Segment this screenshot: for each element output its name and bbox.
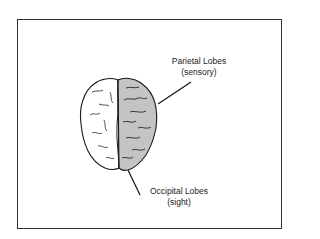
occipital-lobes-name: Occipital Lobes	[143, 186, 215, 197]
left-hemisphere	[80, 79, 119, 170]
parietal-leader-line	[158, 82, 191, 104]
parietal-lobes-name: Parietal Lobes	[163, 56, 235, 67]
occipital-lobes-label: Occipital Lobes (sight)	[143, 186, 215, 208]
parietal-lobes-label: Parietal Lobes (sensory)	[163, 56, 235, 78]
parietal-lobes-function: (sensory)	[163, 67, 235, 78]
right-hemisphere-highlighted	[118, 78, 157, 170]
occipital-leader-line	[128, 170, 140, 195]
occipital-lobes-function: (sight)	[143, 197, 215, 208]
